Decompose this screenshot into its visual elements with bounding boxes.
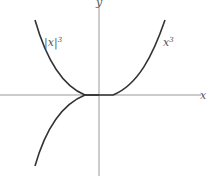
abs-x-cubed-exp: 3 bbox=[58, 36, 63, 44]
y-axis-label: y bbox=[95, 0, 103, 9]
x-axis-label: x bbox=[200, 89, 207, 102]
x-cubed-exp: 3 bbox=[169, 36, 174, 44]
curve-abs-x-cubed-left bbox=[35, 20, 99, 95]
abs-x-cubed-label: |x|3 bbox=[44, 36, 63, 50]
abs-x-cubed-base: |x| bbox=[44, 36, 58, 50]
x-cubed-label: x3 bbox=[163, 36, 174, 49]
curve-x-cubed-left bbox=[35, 95, 99, 166]
plot: y x |x|3 x3 bbox=[0, 0, 209, 176]
diagram-canvas: y x |x|3 x3 bbox=[0, 0, 209, 176]
curve-right-branch bbox=[99, 20, 165, 95]
